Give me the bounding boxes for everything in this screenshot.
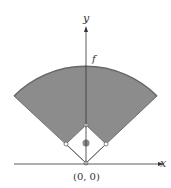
y-axis-label: y bbox=[82, 12, 90, 25]
origin-label: (0, 0) bbox=[73, 171, 100, 182]
y-axis-arrow-icon bbox=[84, 26, 88, 32]
diagram-canvas: y x f (0, 0) bbox=[0, 0, 171, 188]
first-base bbox=[104, 142, 108, 146]
x-axis-label: x bbox=[160, 157, 167, 170]
curve-label: f bbox=[91, 53, 98, 64]
third-base bbox=[64, 142, 68, 146]
